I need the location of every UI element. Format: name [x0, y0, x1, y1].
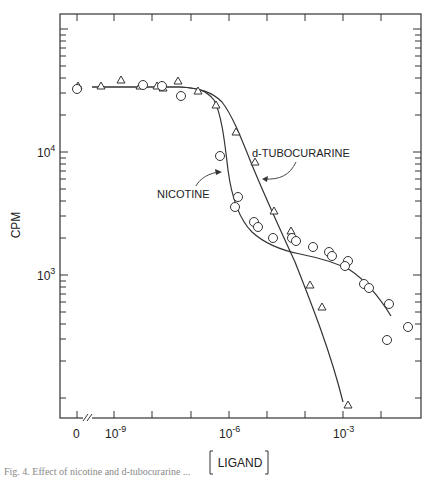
y-axis-title: CPM: [9, 212, 23, 239]
nicotine-curve: [92, 87, 391, 316]
tubocurarine-markers: [74, 76, 352, 408]
tubocurarine-label: d-TUBOCURARINE: [252, 147, 350, 159]
tubocurarine-arrowhead-icon: [262, 176, 268, 182]
x-tick-1e-9: 10-9: [105, 424, 126, 441]
x-tick-0: 0: [73, 427, 80, 441]
x-tick-1e-6: 10-6: [219, 424, 240, 441]
figure-caption: Fig. 4. Effect of nicotine and d-tubocur…: [4, 466, 190, 477]
nicotine-arrow: [196, 172, 219, 186]
x-tick-1e-3: 10-3: [333, 424, 354, 441]
y-tick-1e4: 104: [37, 143, 55, 160]
nicotine-label: NICOTINE: [157, 188, 210, 200]
nicotine-arrowhead-icon: [215, 169, 222, 175]
y-tick-1e3: 103: [37, 266, 55, 283]
y-ticks-right: [413, 29, 421, 398]
x-tick-labels: 0 10-9 10-6 10-3: [73, 424, 354, 441]
tubocurarine-curve: [77, 87, 343, 402]
x-ticks-bottom: [77, 411, 381, 418]
y-tick-labels: 104 103: [37, 143, 55, 283]
x-axis-title-text: LIGAND: [218, 456, 263, 470]
y-ticks-left: [60, 29, 68, 398]
x-ticks-top: [77, 14, 381, 21]
chart-figure: 0 10-9 10-6 10-3 104 103 CPM LIGAND: [0, 0, 436, 479]
x-axis-break: [83, 414, 92, 422]
x-axis-title: LIGAND: [210, 451, 268, 474]
nicotine-markers: [73, 81, 413, 345]
tubocurarine-arrow: [264, 162, 296, 179]
